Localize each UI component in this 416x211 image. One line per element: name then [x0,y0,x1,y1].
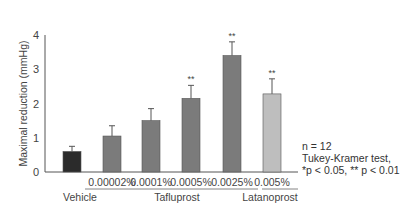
sample-size-note: n = 12 [302,140,332,152]
concentration-label: 0.0025% [211,176,252,188]
x-labels: 0.00002%0.0001%0.0005%0.0025%0.005%Vehic… [63,176,298,203]
y-tick-label: 3 [33,63,39,75]
bar [182,98,200,172]
concentration-label: 0.0005% [170,176,211,188]
significance-marker: ** [187,74,195,84]
group-label: Latanoprost [242,191,298,203]
group-label: Vehicle [63,191,97,203]
group-label: Tafluprost [154,191,200,203]
y-tick-label: 4 [33,29,39,41]
y-tick-label: 0 [33,166,39,178]
concentration-label: 0.005% [254,176,290,188]
bar [103,136,121,172]
bar [63,151,81,172]
y-tick-label: 1 [33,132,39,144]
y-tick-label: 2 [33,98,39,110]
y-axis-label: Maximal reduction (mmHg) [17,40,29,166]
concentration-label: 0.0001% [130,176,171,188]
bar [142,121,160,172]
bars: ****** [63,31,281,172]
test-name-note: Tukey-Kramer test, [302,152,391,164]
significance-legend: *p < 0.05, ** p < 0.01 [302,164,400,176]
concentration-label: 0.00002% [88,176,135,188]
bar [263,94,281,172]
significance-marker: ** [268,68,276,78]
bar [223,56,241,172]
significance-marker: ** [228,31,236,41]
bar-chart: 01234Maximal reduction (mmHg) ****** 0.0… [0,0,416,211]
